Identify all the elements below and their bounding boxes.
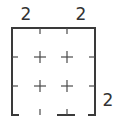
cell-r2-c1[interactable]: [12, 57, 40, 86]
right-clue-row-3: 2: [103, 90, 114, 110]
cell-r3-c2[interactable]: [40, 86, 67, 115]
cell-r2-c3[interactable]: [67, 57, 95, 86]
cell-r1-c1[interactable]: [12, 28, 40, 57]
cell-r1-c3[interactable]: [67, 28, 95, 57]
grid-cells[interactable]: [12, 28, 95, 115]
top-clue-col-1: 2: [21, 4, 32, 24]
cell-r3-c3[interactable]: [67, 86, 95, 115]
cell-r2-c2[interactable]: [40, 57, 67, 86]
top-clue-col-3: 2: [76, 4, 87, 24]
puzzle-board[interactable]: 2 2 2: [0, 0, 118, 126]
cell-r3-c1[interactable]: [12, 86, 40, 115]
cell-r1-c2[interactable]: [40, 28, 67, 57]
